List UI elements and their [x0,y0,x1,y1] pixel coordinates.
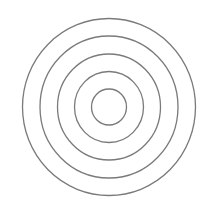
rings-graphic [0,0,208,209]
ring-4 [75,72,144,143]
ring-2 [40,36,178,178]
ring-1 [23,19,196,196]
ring-3 [58,54,161,160]
concentric-circles-diagram [0,0,208,209]
ring-5 [92,89,127,125]
